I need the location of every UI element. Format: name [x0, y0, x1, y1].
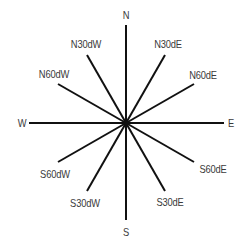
compass-center [123, 120, 129, 126]
label-s30de: S30dE [156, 196, 183, 208]
label-n60de: N60dE [189, 69, 217, 81]
label-s30dw: S30dW [70, 197, 100, 209]
label-s: S [123, 226, 129, 238]
compass-rose-diagram [0, 0, 245, 249]
label-n30de: N30dE [154, 38, 182, 50]
label-n60dw: N60dW [39, 68, 69, 80]
label-w: W [18, 117, 27, 129]
label-n: N [123, 9, 130, 21]
label-e: E [228, 117, 234, 129]
label-s60dw: S60dW [40, 168, 70, 180]
label-s60de: S60dE [199, 163, 226, 175]
label-n30dw: N30dW [71, 38, 101, 50]
